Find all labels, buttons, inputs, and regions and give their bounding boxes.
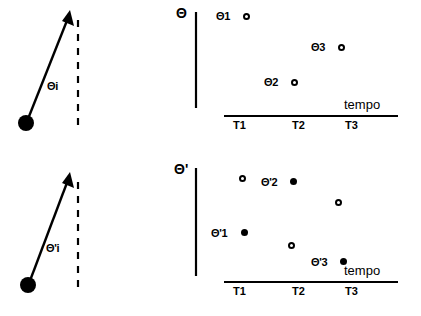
x-tick-label-t3: T3 bbox=[345, 286, 358, 297]
data-point-marker-theta2 bbox=[291, 79, 298, 86]
x-axis-label: tempo bbox=[344, 98, 380, 111]
reference-point-marker-t3 bbox=[335, 199, 342, 206]
data-point-label-theta-prime-2: Θ'2 bbox=[261, 177, 277, 188]
data-point-marker-theta-prime-3 bbox=[340, 258, 347, 265]
panel-bottom: Θ'i Θ' tempo T1 T2 T3 Θ'1 Θ'2 Θ'3 bbox=[0, 158, 421, 316]
x-tick-label-t2: T2 bbox=[292, 120, 305, 131]
y-axis-label: Θ bbox=[176, 6, 187, 20]
data-point-marker-theta1 bbox=[243, 13, 250, 20]
data-point-label-theta-prime-3: Θ'3 bbox=[311, 257, 327, 268]
y-axis-label: Θ' bbox=[174, 162, 188, 176]
x-tick-label-t3: T3 bbox=[345, 120, 358, 131]
reference-point-marker-t2 bbox=[288, 242, 295, 249]
x-tick-label-t2: T2 bbox=[292, 286, 305, 297]
x-tick-label-t1: T1 bbox=[233, 120, 246, 131]
x-axis-label: tempo bbox=[344, 264, 380, 277]
figure-root: Θi Θ tempo T1 T2 T3 Θ1 Θ2 Θ3 bbox=[0, 0, 421, 316]
reference-point-marker-t1 bbox=[239, 175, 246, 182]
data-point-label-theta3: Θ3 bbox=[311, 42, 325, 53]
chart-axes-top-svg bbox=[0, 0, 421, 158]
data-point-label-theta1: Θ1 bbox=[216, 11, 230, 22]
data-point-marker-theta3 bbox=[338, 44, 345, 51]
panel-top: Θi Θ tempo T1 T2 T3 Θ1 Θ2 Θ3 bbox=[0, 0, 421, 158]
data-point-marker-theta-prime-2 bbox=[290, 178, 297, 185]
data-point-label-theta-prime-1: Θ'1 bbox=[211, 228, 227, 239]
data-point-marker-theta-prime-1 bbox=[241, 229, 248, 236]
x-tick-label-t1: T1 bbox=[233, 286, 246, 297]
data-point-label-theta2: Θ2 bbox=[264, 77, 278, 88]
